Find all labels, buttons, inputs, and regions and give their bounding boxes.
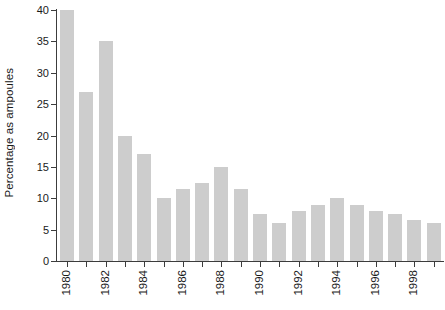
x-axis-tick: [376, 262, 377, 267]
x-axis-tick-label: 1992: [293, 270, 305, 296]
x-axis-tick: [221, 262, 222, 267]
x-axis-tick-label: 1998: [408, 270, 420, 296]
bar: [272, 223, 286, 261]
y-axis-tick: [51, 198, 56, 199]
bar: [388, 214, 402, 261]
y-axis-tick-label: 10: [37, 193, 49, 204]
y-axis-tick-label: 25: [37, 99, 49, 110]
bar: [176, 189, 190, 261]
bar: [99, 41, 113, 261]
plot-area: [57, 10, 443, 261]
y-axis-tick: [51, 136, 56, 137]
x-axis-tick: [414, 262, 415, 267]
bar-chart: Percentage as ampoules 0510152025303540 …: [0, 0, 445, 310]
bar: [157, 198, 171, 261]
y-axis-tick-label: 20: [37, 130, 49, 141]
x-axis-tick: [357, 262, 358, 267]
x-axis-tick-label: 1982: [100, 270, 112, 296]
x-axis-tick-label: 1986: [177, 270, 189, 296]
bar: [330, 198, 344, 261]
x-axis-tick: [299, 262, 300, 267]
bar: [350, 205, 364, 261]
x-axis-tick: [164, 262, 165, 267]
bar: [427, 223, 441, 261]
bar: [137, 154, 151, 261]
bar: [214, 167, 228, 261]
x-axis-tick: [241, 262, 242, 267]
x-axis-tick: [434, 262, 435, 267]
bar: [253, 214, 267, 261]
bar: [311, 205, 325, 261]
y-axis-tick-label: 15: [37, 161, 49, 172]
x-axis-tick-label: 1984: [138, 270, 150, 296]
y-axis-tick: [51, 230, 56, 231]
bar: [407, 220, 421, 261]
x-axis-line: [56, 261, 444, 262]
bar: [195, 183, 209, 261]
y-axis-tick: [51, 10, 56, 11]
x-axis-tick: [260, 262, 261, 267]
x-axis-tick-label: 1980: [61, 270, 73, 296]
y-axis-tick: [51, 261, 56, 262]
bar: [118, 136, 132, 262]
x-axis-tick: [144, 262, 145, 267]
y-axis-tick-label: 40: [37, 5, 49, 16]
x-axis-tick-label: 1996: [370, 270, 382, 296]
x-axis-tick: [67, 262, 68, 267]
y-axis-tick-label: 30: [37, 67, 49, 78]
y-axis-tick: [51, 104, 56, 105]
x-axis-tick: [279, 262, 280, 267]
x-axis-tick-label: 1990: [254, 270, 266, 296]
x-axis-tick: [202, 262, 203, 267]
bar: [292, 211, 306, 261]
y-axis-title: Percentage as ampoules: [0, 0, 18, 265]
bar: [60, 10, 74, 261]
x-axis-tick-label: 1994: [331, 270, 343, 296]
y-axis-title-label: Percentage as ampoules: [3, 68, 15, 197]
x-axis-tick: [106, 262, 107, 267]
bar: [234, 189, 248, 261]
bars-layer: [57, 10, 443, 261]
y-axis-tick: [51, 41, 56, 42]
y-axis-tick-label: 0: [43, 256, 49, 267]
x-axis-tick: [395, 262, 396, 267]
bar: [369, 211, 383, 261]
x-axis-tick: [125, 262, 126, 267]
x-axis-tick: [337, 262, 338, 267]
x-axis-tick: [86, 262, 87, 267]
x-axis-tick: [318, 262, 319, 267]
x-axis-tick: [183, 262, 184, 267]
y-axis-tick-label: 35: [37, 36, 49, 47]
y-axis-tick: [51, 167, 56, 168]
y-axis-tick: [51, 73, 56, 74]
x-axis-tick-label: 1988: [215, 270, 227, 296]
y-axis-tick-label: 5: [43, 224, 49, 235]
y-axis-tick-labels: 0510152025303540: [0, 0, 49, 310]
bar: [79, 92, 93, 261]
